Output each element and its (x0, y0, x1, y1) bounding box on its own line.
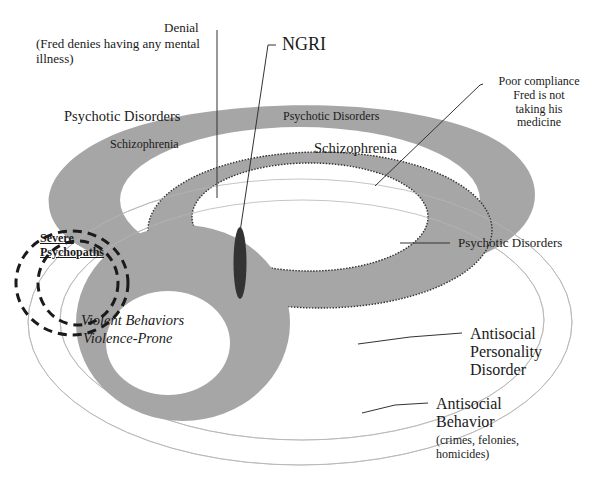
poor-compliance-line2: Fred is not (488, 89, 590, 103)
denial-title: Denial (164, 21, 199, 36)
poor-compliance-line4: medicine (488, 116, 590, 130)
ngri-marker (234, 227, 247, 299)
severe-psychopaths-line1: Severe (40, 232, 74, 246)
aspd-line2: Personality (470, 343, 542, 361)
denial-subtitle-line2: illness) (36, 52, 74, 67)
denial-subtitle-line1: (Fred denies having any mental (36, 37, 200, 52)
severe-psychopaths-line2: Psychopaths (40, 246, 104, 260)
asb-leader-line (362, 403, 428, 413)
violent-behaviors-line2: Violence-Prone (83, 330, 172, 347)
asb-line2: Behavior (436, 413, 495, 431)
poor-compliance-line3: taking his (488, 103, 590, 117)
asb-sub-line1: (crimes, felonies, (436, 434, 519, 448)
asb-line1: Antisocial (436, 395, 502, 413)
schizophrenia-right-label: Schizophrenia (314, 140, 397, 157)
psychotic-disorders-left-label: Psychotic Disorders (64, 108, 180, 125)
violent-behaviors-line1: Violent Behaviors (81, 312, 184, 329)
aspd-line1: Antisocial (470, 325, 536, 343)
ngri-label: NGRI (282, 34, 326, 55)
poor-compliance-label: Poor compliance Fred is not taking his m… (488, 75, 590, 130)
psychotic-disorders-right-label: Psychotic Disorders (458, 236, 562, 251)
schizophrenia-left-label: Schizophrenia (110, 138, 179, 152)
aspd-line3: Disorder (470, 361, 526, 379)
asb-sub-line2: homicides) (436, 448, 489, 462)
aspd-leader-line (358, 333, 462, 344)
poor-compliance-line1: Poor compliance (488, 75, 590, 89)
psychotic-disorders-top-label: Psychotic Disorders (283, 110, 379, 124)
